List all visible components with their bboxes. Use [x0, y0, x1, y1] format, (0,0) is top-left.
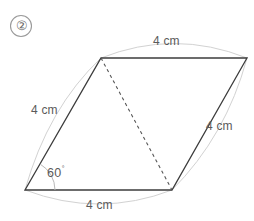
- degree-symbol: °: [62, 165, 65, 172]
- edge-label-bottom: 4 cm: [86, 199, 113, 211]
- angle-value: 60: [47, 166, 61, 180]
- diagonal-dashed-line: [101, 58, 172, 190]
- angle-label-60-degrees: 60°: [47, 166, 64, 180]
- edge-label-top: 4 cm: [153, 35, 180, 47]
- edge-label-left: 4 cm: [31, 104, 58, 116]
- figure-canvas: ② 4 cm 4 cm 4 cm 4 cm 60°: [0, 0, 254, 221]
- edge-label-right: 4 cm: [206, 120, 233, 132]
- item-number-label: ②: [16, 19, 28, 32]
